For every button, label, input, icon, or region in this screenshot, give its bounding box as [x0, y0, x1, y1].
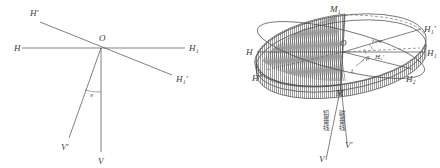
label-angle-beta: β — [365, 54, 370, 62]
label-h1-prime-right: H₁′ — [423, 24, 437, 34]
label-h1-right-panel: H₁ — [426, 48, 437, 58]
label-h-left-right-panel: H — [245, 47, 253, 57]
label-h1prime-lower-right: H₁′ — [175, 74, 189, 84]
diagram-canvas: H H₁ H′ H₁′ O V V′ v — [0, 0, 440, 168]
figure-root: H H₁ H′ H₁′ O V V′ v — [0, 0, 440, 168]
label-m-bottom: M — [335, 88, 344, 98]
label-m1-top: M₁ — [329, 4, 341, 14]
label-cjk-magnetic-vertical: 磁垂线 — [337, 109, 345, 131]
label-h2-prime-inner: H₂′ — [374, 53, 384, 61]
label-h-double-prime: H″ — [251, 73, 262, 83]
label-h2-right: H₂ — [405, 74, 416, 84]
label-vprime-bottom-left: V′ — [61, 142, 69, 152]
label-cjk-plumb-line: 铅垂线 — [321, 109, 329, 131]
label-h1-right: H₁ — [188, 43, 199, 53]
label-origin-o-right: O — [340, 38, 347, 48]
label-angle-i-v: iᵥ — [351, 67, 355, 75]
label-h-left: H — [13, 43, 21, 53]
label-vprime-bottom-right: V′ — [345, 140, 353, 150]
label-angle-i-equals-v: i=v — [372, 37, 383, 45]
label-hprime-upper-left: H′ — [29, 8, 39, 18]
label-origin-o: O — [99, 33, 106, 43]
